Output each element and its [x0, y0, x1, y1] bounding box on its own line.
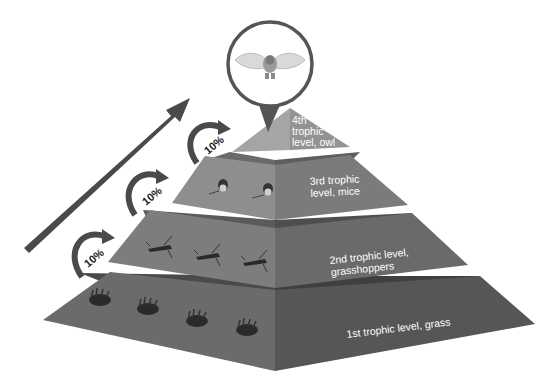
level-3-tier: 3rd trophic level, mice — [172, 152, 408, 220]
level-4-left-face — [232, 108, 290, 152]
arrowhead-icon — [218, 120, 231, 135]
level-3-label: 3rd trophic level, mice — [309, 172, 363, 199]
trophic-pyramid-diagram: 1st trophic level, grass 2nd trophic lev… — [0, 0, 548, 383]
transfer-arrow-1: 10% — [75, 229, 115, 277]
level-4-tier: 4th trophic level, owl — [232, 108, 350, 152]
transfer-arrow-2: 10% — [129, 169, 169, 215]
transfer-percent-1: 10% — [82, 246, 107, 269]
transfer-percent-2: 10% — [140, 184, 165, 207]
arrowhead-icon — [156, 169, 169, 184]
transfer-percent-3: 10% — [202, 133, 227, 156]
level-1-tier: 1st trophic level, grass — [43, 272, 535, 371]
level-4-label: 4th trophic level, owl — [292, 114, 335, 148]
arrowhead-icon — [102, 229, 115, 244]
